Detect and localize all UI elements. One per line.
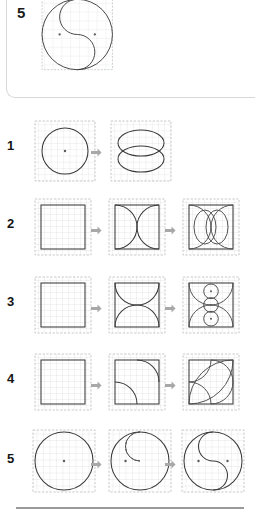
row-number-1: 1 <box>7 138 14 153</box>
row-4: 4 <box>0 351 255 417</box>
row-5-arrow-1-icon <box>91 455 102 473</box>
row-3: 3 <box>0 274 255 340</box>
row-5-step-1-large-circle <box>30 427 98 495</box>
featured-figure-yin-yang <box>35 0 123 82</box>
row-5: 5 <box>0 427 255 499</box>
row-3-step-1-plain-square <box>32 274 94 336</box>
row-number-4: 4 <box>7 371 14 386</box>
row-1-arrow-icon <box>91 143 102 161</box>
worksheet-page: 5 1 <box>0 0 255 518</box>
row-4-step-1-plain-square <box>32 351 94 413</box>
row-3-arrow-2-icon <box>165 299 176 317</box>
featured-panel: 5 <box>6 0 255 98</box>
row-4-step-3-square-leaf-lens <box>180 351 242 413</box>
row-4-arrow-1-icon <box>91 376 102 394</box>
row-2: 2 <box>0 196 255 262</box>
row-1-step-1-circle-in-grid <box>32 118 98 184</box>
featured-panel-number: 5 <box>17 4 25 21</box>
row-1-step-2-two-overlapping-ellipses <box>108 118 174 184</box>
row-2-step-1-plain-square <box>32 196 94 258</box>
row-1: 1 <box>0 118 255 184</box>
row-2-arrow-2-icon <box>165 221 176 239</box>
bottom-divider <box>16 507 244 509</box>
row-2-step-2-square-with-side-arcs <box>106 196 168 258</box>
row-5-arrow-2-icon <box>165 455 176 473</box>
row-2-arrow-1-icon <box>91 221 102 239</box>
row-2-step-3-square-arcs-plus-ellipses <box>180 196 242 258</box>
row-number-3: 3 <box>7 294 14 309</box>
row-5-step-2-circle-with-inner-dashed-circle <box>106 427 174 495</box>
row-4-step-2-square-with-two-quarter-arcs <box>106 351 168 413</box>
row-number-2: 2 <box>7 216 14 231</box>
row-number-5: 5 <box>7 451 14 466</box>
row-4-arrow-2-icon <box>165 376 176 394</box>
row-3-arrow-1-icon <box>91 299 102 317</box>
row-3-step-3-square-arcs-plus-three-circles <box>180 274 242 336</box>
row-5-step-3-yin-yang-s-curve <box>179 427 247 495</box>
row-3-step-2-square-with-top-bottom-arcs <box>106 274 168 336</box>
